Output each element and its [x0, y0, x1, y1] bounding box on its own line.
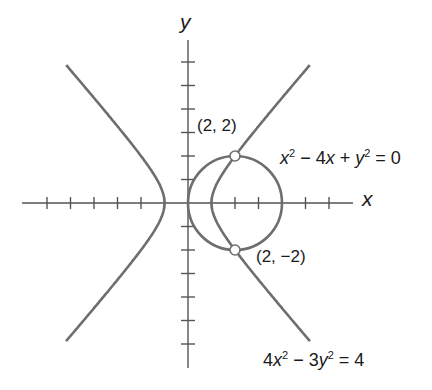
point-label-2-neg2: (2, −2): [256, 247, 306, 267]
hyperbola-equation: 4x2 − 3y2 = 4: [263, 349, 364, 371]
figure: y x (2, 2) (2, −2) x2 − 4x + y2 = 0 4x2 …: [0, 0, 432, 390]
intersection-point: [230, 245, 240, 255]
intersection-point: [230, 151, 240, 161]
circle-equation: x2 − 4x + y2 = 0: [280, 147, 401, 169]
x-axis-label: x: [362, 187, 373, 211]
point-label-2-2: (2, 2): [197, 116, 237, 136]
y-axis-label: y: [180, 10, 191, 34]
